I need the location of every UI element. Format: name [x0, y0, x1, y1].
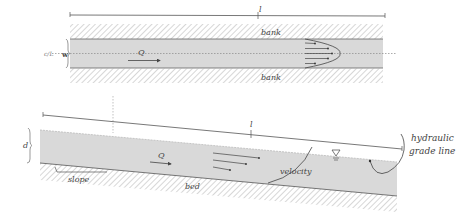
- bank-bottom-label: bank: [261, 73, 281, 82]
- channel-flow-diagram: l bank bank w c/L Q: [0, 0, 468, 219]
- centerline-label: c/L: [44, 50, 53, 57]
- slope-label: slope: [68, 175, 90, 184]
- bottom-bank-hatch: [70, 68, 383, 83]
- profile-length-label: l: [250, 120, 253, 129]
- top-bank-hatch: [70, 24, 383, 39]
- profile-flow-label: Q: [158, 151, 165, 160]
- hgl-label-line1: hydraulic: [411, 133, 454, 143]
- bank-top-label: bank: [261, 28, 281, 37]
- plan-length-dimension: l: [70, 5, 385, 19]
- width-label: w: [61, 50, 69, 59]
- profile-view: l d slope Q bed velocity: [23, 112, 455, 212]
- hgl-label-line2: grade line: [409, 146, 455, 156]
- plan-length-label: l: [259, 5, 262, 14]
- depth-label: d: [23, 141, 28, 150]
- bed-label: bed: [185, 182, 200, 191]
- plan-flow-label: Q: [138, 48, 145, 57]
- plan-view: l bank bank w c/L Q: [44, 5, 396, 83]
- velocity-label: velocity: [280, 167, 312, 176]
